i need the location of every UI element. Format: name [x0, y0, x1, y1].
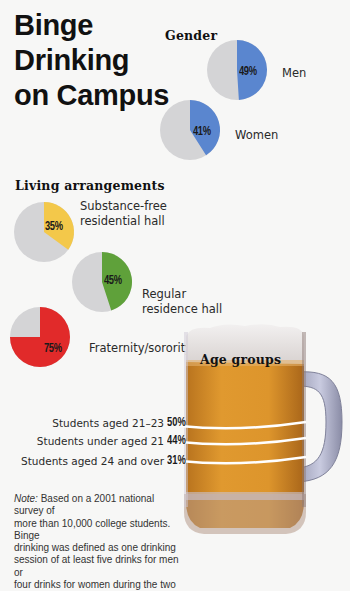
footnote: Note: Based on a 2001 national survey of…: [14, 493, 184, 591]
age-row: Students under aged 21: [37, 435, 164, 447]
age-pct: 44%: [167, 432, 186, 447]
title-line: Drinking: [14, 43, 169, 78]
pie-substance-free: [14, 202, 74, 262]
age-row: Students aged 21–23: [52, 417, 164, 429]
label-regular-hall: Regular residence hall: [142, 287, 222, 317]
pct-fraternity: 75%: [44, 340, 62, 355]
pct-women: 41%: [193, 123, 211, 138]
age-pct: 50%: [167, 414, 186, 429]
age-pct: 31%: [167, 452, 186, 467]
age-label: Students aged 21–23: [52, 417, 164, 429]
age-row: Students aged 24 and over: [21, 455, 164, 467]
pie-regular-hall: [72, 252, 132, 312]
label-women: Women: [235, 128, 278, 143]
pie-fraternity: [10, 307, 70, 367]
label-fraternity: Fraternity/sorority: [89, 341, 192, 356]
pie-women: [160, 100, 220, 160]
age-label: Students aged 24 and over: [21, 455, 164, 467]
title-line: on Campus: [14, 78, 169, 113]
pct-men: 49%: [239, 63, 257, 78]
pie-men: [207, 40, 267, 100]
age-label: Students under aged 21: [37, 435, 164, 447]
pct-substance-free: 35%: [45, 218, 63, 233]
page-title: Binge Drinking on Campus: [14, 8, 169, 113]
label-men: Men: [282, 66, 306, 81]
age-groups-heading: Age groups: [200, 352, 281, 367]
label-substance-free: Substance-free residential hall: [80, 199, 167, 229]
note-prefix: Note:: [14, 493, 38, 504]
living-heading: Living arrangements: [15, 178, 165, 193]
pct-regular-hall: 45%: [104, 272, 122, 287]
title-line: Binge: [14, 8, 169, 43]
